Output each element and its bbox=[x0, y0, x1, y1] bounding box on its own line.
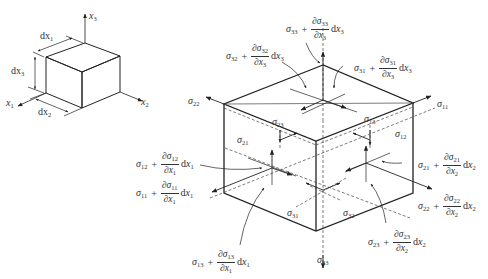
axis-x2-label: x2 bbox=[141, 97, 149, 109]
axis-x1-label: x1 bbox=[6, 98, 14, 110]
sigma13-label: σ13 bbox=[364, 114, 375, 126]
dim-dx3-label: dx3 bbox=[11, 66, 24, 78]
expr-sigma21-increment: σ21 + ∂σ21∂x2 dx2 bbox=[418, 153, 476, 177]
dim-dx2-label: dx2 bbox=[38, 107, 51, 119]
axis-x3-label: x3 bbox=[89, 11, 97, 23]
small-cube bbox=[46, 43, 120, 108]
expr-sigma32-increment: σ32 + ∂σ32∂x3 dx3 bbox=[226, 44, 284, 68]
expr-sigma31-increment: σ31 + ∂σ31∂x3 dx3 bbox=[354, 56, 412, 80]
sigma11-label: σ11 bbox=[437, 99, 448, 111]
expr-sigma33-increment: σ33 + ∂σ33∂x3 dx3 bbox=[286, 17, 344, 41]
sigma22-label: σ22 bbox=[188, 96, 199, 108]
sigma12-label: σ12 bbox=[395, 129, 406, 141]
expr-sigma11-increment: σ11 + ∂σ11∂x1 dx1 bbox=[136, 181, 193, 205]
expr-sigma12-increment: σ12 + ∂σ12∂x1 dx1 bbox=[136, 152, 194, 176]
small-cube-axes bbox=[18, 14, 142, 106]
sigma31-label: σ31 bbox=[287, 208, 298, 220]
dim-dx1-label: dx1 bbox=[40, 31, 53, 43]
sigma32-label: σ32 bbox=[343, 208, 354, 220]
expr-sigma22-increment: σ22 + ∂σ22∂x2 dx2 bbox=[418, 194, 476, 218]
sigma23-label: σ23 bbox=[272, 117, 283, 129]
sigma33-label: σ33 bbox=[317, 255, 328, 267]
sigma21-label: σ21 bbox=[237, 135, 248, 147]
expr-sigma23-increment: σ23 + ∂σ23∂x2 dx2 bbox=[368, 230, 426, 254]
expr-sigma13-increment: σ13 + ∂σ13∂x1 dx1 bbox=[192, 250, 250, 274]
small-cube-dimension-lines bbox=[28, 36, 83, 116]
